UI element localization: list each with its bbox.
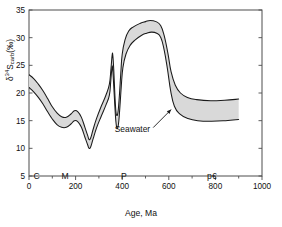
y-tick-label: 30 — [16, 34, 26, 43]
chart-canvas: 5101520253035 02004006008001000 CMPp€ Se… — [0, 0, 282, 227]
y-tick-label: 25 — [16, 61, 26, 70]
x-tick-label: 800 — [209, 182, 223, 191]
x-tick-label: 200 — [69, 182, 83, 191]
era-band-label: P — [121, 171, 127, 181]
x-tick-label: 0 — [27, 182, 32, 191]
y-tick-label: 10 — [16, 144, 26, 153]
y-tick-label: 15 — [16, 117, 26, 126]
sulfur-isotope-chart: 5101520253035 02004006008001000 CMPp€ Se… — [0, 0, 282, 227]
plot-frame — [29, 10, 262, 176]
seawater-label: Seawater — [115, 124, 151, 134]
x-tick-label: 600 — [162, 182, 176, 191]
y-tick-label: 20 — [16, 89, 26, 98]
y-tick-label: 5 — [20, 172, 25, 181]
x-tick-label: 1000 — [253, 182, 272, 191]
y-tick-label: 35 — [16, 6, 26, 15]
era-band-label: M — [62, 171, 69, 181]
x-tick-label: 400 — [115, 182, 129, 191]
era-band-label: C — [33, 171, 39, 181]
era-band-label: p€ — [207, 171, 217, 181]
seawater-annotation: Seawater — [115, 110, 171, 134]
x-axis-label: Age, Ma — [0, 208, 282, 218]
